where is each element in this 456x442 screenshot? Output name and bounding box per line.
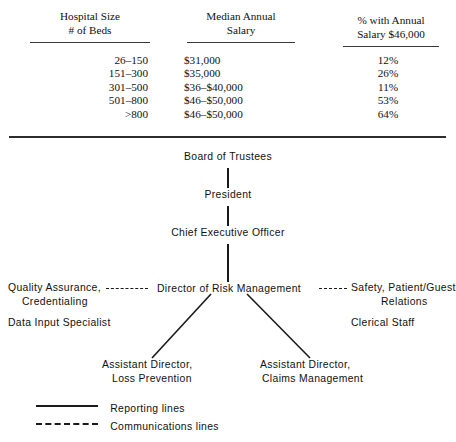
table-cell: 53% [330, 94, 446, 107]
table-cell: >800 [10, 108, 148, 121]
column-header-line2: Salary [176, 24, 306, 38]
dashed-line-icon [36, 423, 98, 425]
table-column-cells-beds: 26–150 151–300 301–500 501–800 >800 [10, 43, 170, 121]
table-column-cells-percent: 12% 26% 11% 53% 64% [330, 47, 452, 121]
org-node-assistant-director-loss-prevention: Assistant Director, Loss Prevention [102, 358, 192, 385]
asst-right-line2: Claims Management [260, 372, 363, 386]
column-header-line2: # of Beds [10, 24, 170, 38]
table-column-hospital-size: Hospital Size # of Beds 26–150 151–300 3… [10, 0, 170, 121]
table-cell: 11% [330, 81, 446, 94]
legend-item-communications-lines: Communications lines [36, 420, 219, 438]
legend-label-communications: Communications lines [110, 421, 219, 432]
salary-table: Hospital Size # of Beds 26–150 151–300 3… [0, 0, 455, 136]
table-cell: 26% [330, 67, 446, 80]
column-header-hospital-size: Hospital Size # of Beds [10, 0, 170, 37]
legend-label-reporting: Reporting lines [110, 403, 185, 414]
column-header-line1: Hospital Size [10, 10, 170, 24]
table-cell: $46–$50,000 [184, 108, 306, 121]
chart-legend: Reporting lines Communications lines [0, 396, 455, 442]
table-cell: 501–800 [10, 94, 148, 107]
column-header-percent: % with Annual Salary $46,000 [330, 0, 452, 41]
column-header-line2: Salary $46,000 [330, 28, 452, 42]
table-cell: 64% [330, 108, 446, 121]
table-cell: 151–300 [10, 67, 148, 80]
table-cell: $31,000 [184, 54, 306, 67]
asst-left-line2: Loss Prevention [102, 372, 192, 386]
table-column-percent-with-salary: % with Annual Salary $46,000 12% 26% 11%… [330, 0, 452, 121]
asst-right-line1: Assistant Director, [260, 359, 350, 370]
solid-line-icon [36, 405, 98, 407]
column-header-line1: Median Annual [176, 10, 306, 24]
table-column-cells-salary: $31,000 $35,000 $36–$40,000 $46–$50,000 … [176, 43, 306, 121]
table-cell: $36–$40,000 [184, 81, 306, 94]
reporting-diagonals [0, 136, 455, 388]
table-cell: $35,000 [184, 67, 306, 80]
table-cell: 301–500 [10, 81, 148, 94]
reporting-line-to-assistant-director-claims-management [247, 294, 310, 358]
reporting-line-to-assistant-director-loss-prevention [152, 294, 211, 358]
table-cell: 12% [330, 54, 446, 67]
legend-item-reporting-lines: Reporting lines [36, 402, 185, 420]
org-node-assistant-director-claims-management: Assistant Director, Claims Management [260, 358, 363, 385]
table-column-median-salary: Median Annual Salary $31,000 $35,000 $36… [176, 0, 306, 121]
table-cell: 26–150 [10, 54, 148, 67]
column-header-median-salary: Median Annual Salary [176, 0, 306, 37]
organization-chart: Board of Trustees President Chief Execut… [0, 136, 455, 388]
table-cell: $46–$50,000 [184, 94, 306, 107]
asst-left-line1: Assistant Director, [102, 359, 192, 370]
column-header-line1: % with Annual [330, 14, 452, 28]
